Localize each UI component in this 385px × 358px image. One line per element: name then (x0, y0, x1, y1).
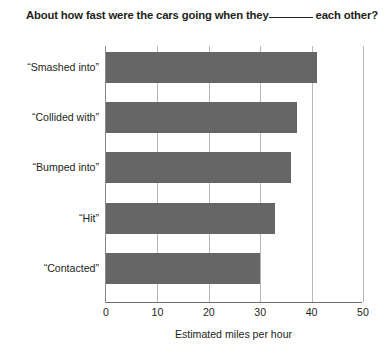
gridline-50 (363, 46, 364, 302)
bar (106, 253, 260, 284)
category-label: “Contacted” (0, 253, 99, 284)
x-tick-label-20: 20 (189, 306, 229, 318)
x-tick-label-30: 30 (240, 306, 280, 318)
bar-row: “Bumped into” (106, 152, 363, 183)
x-tick-label-10: 10 (137, 306, 177, 318)
bar (106, 52, 317, 83)
category-label: “Hit” (0, 203, 99, 234)
bar-row: “Collided with” (106, 102, 363, 133)
bar (106, 152, 291, 183)
fill-in-blank-rule (269, 17, 313, 18)
x-tick-label-50: 50 (343, 306, 383, 318)
bar-chart-figure: About how fast were the cars going when … (0, 0, 385, 358)
bar (106, 102, 297, 133)
plot-area: 01020304050“Smashed into”“Collided with”… (105, 46, 362, 303)
x-tick-label-40: 40 (292, 306, 332, 318)
category-label: “Collided with” (0, 102, 99, 133)
x-axis-title: Estimated miles per hour (105, 328, 362, 340)
bar-row: “Hit” (106, 203, 363, 234)
category-label: “Smashed into” (0, 52, 99, 83)
bar-row: “Contacted” (106, 253, 363, 284)
chart-title-before-blank: About how fast were the cars going when … (26, 9, 269, 21)
bar-row: “Smashed into” (106, 52, 363, 83)
chart-title-after-blank: each other? (316, 9, 378, 21)
x-tick-label-0: 0 (86, 306, 126, 318)
chart-title: About how fast were the cars going when … (26, 9, 376, 21)
category-label: “Bumped into” (0, 152, 99, 183)
bar (106, 203, 275, 234)
